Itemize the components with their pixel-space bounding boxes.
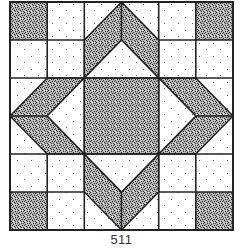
center-square (84, 78, 158, 154)
figure-caption: 511 (0, 232, 243, 247)
corner-square-top-right (196, 2, 233, 40)
corner-square-bottom-left (10, 192, 47, 230)
corner-square-bottom-right (196, 192, 233, 230)
corner-square-top-left (10, 2, 47, 40)
quilt-block-diagram (0, 0, 243, 232)
